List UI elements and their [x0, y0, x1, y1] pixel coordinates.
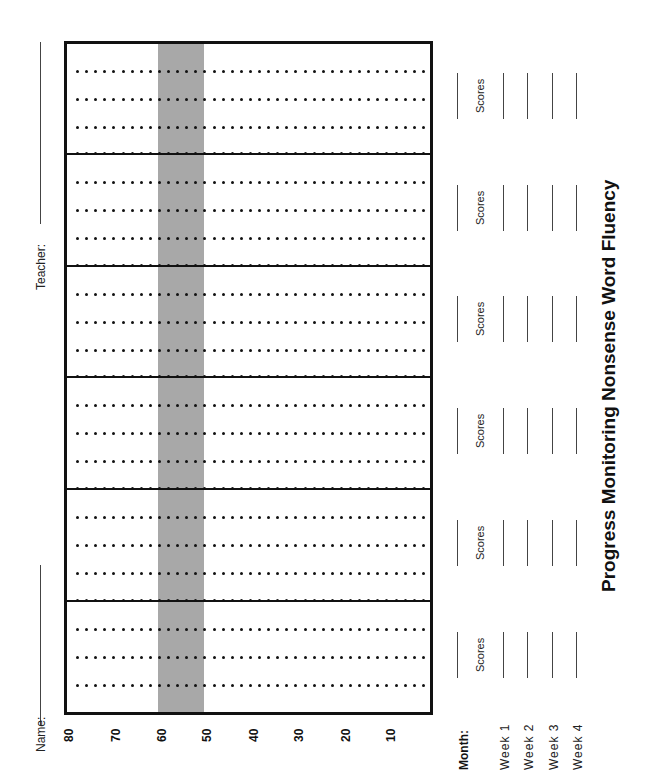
week-dot-row[interactable] [67, 237, 430, 241]
week-dot-row[interactable] [67, 404, 430, 408]
plot-dot[interactable] [404, 98, 407, 101]
plot-dot[interactable] [167, 656, 170, 659]
plot-dot[interactable] [94, 404, 97, 407]
plot-dot[interactable] [294, 70, 297, 73]
plot-dot[interactable] [185, 460, 188, 463]
plot-dot[interactable] [140, 293, 143, 296]
plot-dot[interactable] [76, 628, 79, 631]
plot-dot[interactable] [294, 460, 297, 463]
plot-dot[interactable] [322, 432, 325, 435]
plot-dot[interactable] [131, 321, 134, 324]
plot-dot[interactable] [285, 237, 288, 240]
plot-dot[interactable] [194, 349, 197, 352]
plot-dot[interactable] [185, 404, 188, 407]
plot-dot[interactable] [231, 70, 234, 73]
plot-dot[interactable] [131, 544, 134, 547]
plot-dot[interactable] [267, 516, 270, 519]
plot-dot[interactable] [385, 209, 388, 212]
plot-dot[interactable] [358, 181, 361, 184]
plot-dot[interactable] [149, 321, 152, 324]
plot-dot[interactable] [131, 432, 134, 435]
plot-dot[interactable] [340, 349, 343, 352]
plot-dot[interactable] [267, 321, 270, 324]
plot-dot[interactable] [376, 628, 379, 631]
week-dot-row[interactable] [67, 126, 430, 130]
plot-dot[interactable] [267, 237, 270, 240]
plot-dot[interactable] [94, 209, 97, 212]
plot-dot[interactable] [213, 126, 216, 129]
plot-dot[interactable] [249, 209, 252, 212]
plot-dot[interactable] [185, 656, 188, 659]
plot-dot[interactable] [358, 404, 361, 407]
plot-dot[interactable] [185, 181, 188, 184]
plot-dot[interactable] [203, 572, 206, 575]
plot-dot[interactable] [258, 460, 261, 463]
plot-dot[interactable] [122, 432, 125, 435]
plot-dot[interactable] [331, 460, 334, 463]
plot-dot[interactable] [340, 209, 343, 212]
plot-dot[interactable] [340, 544, 343, 547]
plot-dot[interactable] [249, 516, 252, 519]
plot-dot[interactable] [240, 516, 243, 519]
plot-dot[interactable] [322, 460, 325, 463]
plot-dot[interactable] [222, 181, 225, 184]
plot-dot[interactable] [422, 656, 425, 659]
plot-dot[interactable] [358, 209, 361, 212]
plot-dot[interactable] [258, 293, 261, 296]
plot-dot[interactable] [103, 237, 106, 240]
plot-dot[interactable] [85, 209, 88, 212]
plot-dot[interactable] [213, 628, 216, 631]
plot-dot[interactable] [240, 209, 243, 212]
plot-dot[interactable] [258, 544, 261, 547]
plot-dot[interactable] [358, 237, 361, 240]
plot-dot[interactable] [349, 656, 352, 659]
week-dot-row[interactable] [67, 181, 430, 185]
plot-dot[interactable] [158, 181, 161, 184]
plot-dot[interactable] [185, 209, 188, 212]
plot-dot[interactable] [231, 126, 234, 129]
plot-dot[interactable] [103, 656, 106, 659]
plot-dot[interactable] [304, 209, 307, 212]
week-1-score-line[interactable] [503, 73, 504, 119]
plot-dot[interactable] [331, 349, 334, 352]
plot-dot[interactable] [422, 321, 425, 324]
plot-dot[interactable] [404, 181, 407, 184]
plot-dot[interactable] [131, 572, 134, 575]
plot-dot[interactable] [103, 126, 106, 129]
plot-dot[interactable] [149, 70, 152, 73]
week-dot-row[interactable] [67, 293, 430, 297]
plot-dot[interactable] [249, 237, 252, 240]
plot-dot[interactable] [94, 349, 97, 352]
plot-dot[interactable] [112, 432, 115, 435]
plot-dot[interactable] [140, 656, 143, 659]
plot-dot[interactable] [385, 516, 388, 519]
plot-dot[interactable] [122, 684, 125, 687]
plot-dot[interactable] [367, 544, 370, 547]
plot-dot[interactable] [349, 544, 352, 547]
plot-dot[interactable] [76, 404, 79, 407]
plot-dot[interactable] [294, 293, 297, 296]
plot-dot[interactable] [404, 432, 407, 435]
plot-dot[interactable] [176, 237, 179, 240]
plot-dot[interactable] [304, 126, 307, 129]
plot-dot[interactable] [213, 656, 216, 659]
plot-dot[interactable] [103, 572, 106, 575]
plot-dot[interactable] [395, 656, 398, 659]
plot-dot[interactable] [294, 628, 297, 631]
plot-dot[interactable] [294, 209, 297, 212]
plot-dot[interactable] [76, 321, 79, 324]
plot-dot[interactable] [413, 460, 416, 463]
plot-dot[interactable] [103, 460, 106, 463]
plot-dot[interactable] [285, 656, 288, 659]
plot-dot[interactable] [367, 349, 370, 352]
week-dot-row[interactable] [67, 321, 430, 325]
plot-dot[interactable] [404, 628, 407, 631]
plot-dot[interactable] [385, 70, 388, 73]
plot-dot[interactable] [176, 404, 179, 407]
plot-dot[interactable] [358, 628, 361, 631]
plot-dot[interactable] [276, 432, 279, 435]
plot-dot[interactable] [349, 237, 352, 240]
plot-dot[interactable] [231, 349, 234, 352]
plot-dot[interactable] [240, 126, 243, 129]
plot-dot[interactable] [249, 432, 252, 435]
